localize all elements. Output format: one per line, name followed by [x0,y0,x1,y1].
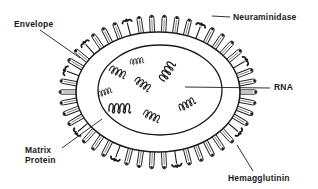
hemagglutinin-spike [101,140,113,157]
hemagglutinin-spike [137,16,144,33]
hemagglutinin-spike [59,90,76,94]
hemagglutinin-spike [81,128,96,144]
hemagglutinin-spike [173,16,180,33]
matrix-protein-label: Matrix Protein [25,145,56,165]
hemagglutinin-spike [240,90,257,94]
envelope-label: Envelope [14,19,53,29]
matrix-label-line1: Matrix [25,145,56,155]
hemagglutinin-spike [212,33,225,50]
hemagglutinin-spike [194,144,204,161]
hemagglutinin-spike [212,135,225,152]
hemagglutinin-spike [236,106,253,116]
matrix-label-line2: Protein [25,155,56,165]
hemagglutinin-spike [239,98,257,105]
hemagglutinin-pointer-line [237,145,253,171]
rna-label: RNA [274,82,293,92]
hemagglutinin-spike [203,27,215,44]
hemagglutinin-spike [149,15,154,32]
hemagglutinin-spike [91,33,104,50]
neuraminidase-pointer-line [212,16,230,17]
envelope-pointer-line [40,30,80,58]
hemagglutinin-spike [239,79,257,86]
hemagglutinin-spike [161,15,166,32]
hemagglutinin-spike [137,150,144,167]
hemagglutinin-spike [124,148,133,166]
hemagglutinin-spike [203,140,215,157]
neuraminidase-spike [170,150,182,168]
hemagglutinin-spike [183,148,192,166]
neuraminidase-label: Neuraminidase [233,12,297,22]
hemagglutinin-spike [62,106,79,116]
hemagglutinin-spike [112,22,122,39]
hemagglutinin-spike [227,48,243,62]
hemagglutinin-spike [220,128,235,144]
hemagglutinin-spike [149,152,154,169]
hemagglutinin-spike [232,114,249,126]
hemagglutinin-spike [220,40,235,56]
hemagglutinin-spike [91,135,104,152]
hemagglutinin-label: Hemagglutinin [228,173,290,183]
hemagglutinin-spike [60,79,78,86]
hemagglutinin-spike [101,27,113,44]
hemagglutinin-spike [67,114,84,126]
hemagglutinin-spike [60,98,78,105]
hemagglutinin-spike [161,152,166,169]
hemagglutinin-spike [236,68,253,78]
hemagglutinin-spike [67,58,84,70]
hemagglutinin-spike [183,18,192,36]
